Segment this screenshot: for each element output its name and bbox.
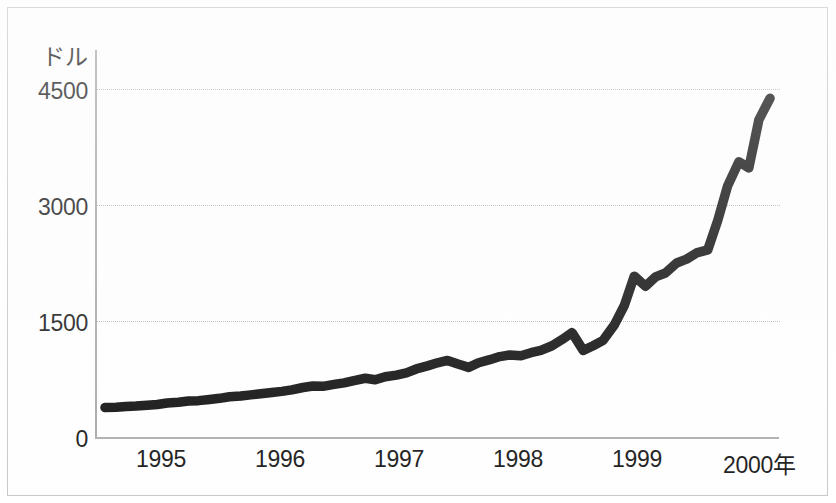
x-tick-label-1996: 1996 bbox=[255, 446, 305, 473]
y-axis-title: ドル bbox=[4, 38, 88, 72]
data-series-price bbox=[105, 98, 770, 407]
series-plot-area bbox=[95, 50, 780, 438]
x-axis-labels: 1995 1996 1997 1998 1999 2000年 bbox=[0, 446, 836, 486]
y-tick-label-4500: 4500 bbox=[10, 78, 88, 105]
x-tick-label-1998: 1998 bbox=[493, 446, 543, 473]
x-tick-label-1995: 1995 bbox=[136, 446, 186, 473]
x-tick-label-1997: 1997 bbox=[374, 446, 424, 473]
chart-figure: ドル 4500 3000 1500 0 1995 1996 1997 1998 … bbox=[0, 0, 836, 503]
y-tick-label-1500: 1500 bbox=[10, 310, 88, 337]
x-tick-label-1999: 1999 bbox=[612, 446, 662, 473]
y-axis-labels: ドル 4500 3000 1500 0 bbox=[4, 0, 88, 503]
x-tick-label-2000: 2000年 bbox=[723, 446, 796, 480]
y-tick-label-3000: 3000 bbox=[10, 194, 88, 221]
